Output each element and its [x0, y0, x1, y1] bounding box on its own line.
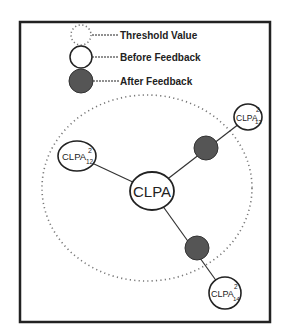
node-left: CLPA 2 12 — [58, 141, 96, 171]
legend-label-after: After Feedback — [120, 76, 193, 87]
node-top-right-sup: 2 — [256, 106, 260, 113]
after-feedback-node-bottom — [185, 236, 209, 260]
hollow-circle-icon — [70, 46, 92, 68]
node-left-base: CLPA — [62, 151, 87, 162]
filled-circle-icon — [69, 69, 93, 93]
node-bottom-sub: 14 — [233, 296, 240, 302]
node-left-sub: 12 — [86, 158, 94, 165]
center-node: CLPA — [130, 172, 174, 210]
legend-label-before: Before Feedback — [120, 52, 201, 63]
node-bottom-base: CLPA — [211, 289, 234, 299]
node-bottom-sup: 2 — [234, 283, 238, 290]
node-top-right-sub: 13 — [255, 119, 262, 125]
node-bottom: CLPA 2 14 — [209, 277, 241, 309]
node-left-sup: 2 — [88, 147, 92, 154]
node-top-right: CLPA 2 13 — [234, 104, 262, 130]
clpa-feedback-diagram: Threshold Value Before Feedback After Fe… — [0, 0, 287, 329]
legend-label-threshold: Threshold Value — [120, 30, 198, 41]
node-bottom-label: CLPA — [211, 289, 234, 299]
after-feedback-node-top-right — [194, 136, 218, 160]
node-left-label: CLPA — [62, 151, 87, 162]
center-node-label: CLPA — [133, 183, 171, 200]
